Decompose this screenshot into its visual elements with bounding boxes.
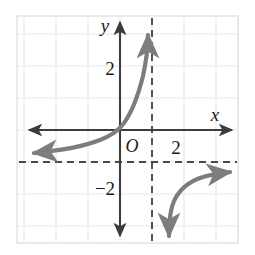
y-axis-label: y — [99, 15, 110, 36]
x-axis-label: x — [210, 104, 220, 125]
x-tick-label-2: 2 — [171, 137, 181, 158]
graph-figure: y x O 2 −2 2 — [0, 0, 255, 255]
figure-background — [0, 0, 255, 255]
y-tick-label-neg2: −2 — [95, 178, 115, 199]
y-tick-label-2: 2 — [105, 58, 115, 79]
origin-label: O — [126, 136, 139, 156]
